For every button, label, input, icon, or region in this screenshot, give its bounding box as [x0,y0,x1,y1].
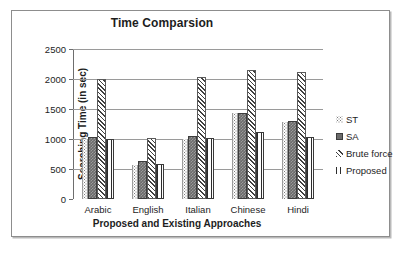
bar [297,72,306,199]
legend-swatch-icon [336,133,343,140]
bar-group-bars [223,49,273,199]
chart-frame: Time Comparsion Searching Time (in sec) … [11,10,390,237]
bar-group: Arabic [73,49,123,199]
bar [97,79,106,199]
bar [197,77,206,199]
legend-swatch-icon [336,150,343,157]
y-axis-tick-label: 1500 [45,104,66,115]
bar [247,70,256,199]
x-axis-category-label: English [123,204,173,215]
legend-item-label: Brute force [346,148,392,159]
bar [288,121,297,199]
x-axis-title: Proposed and Existing Approaches [32,218,322,229]
chart-title: Time Comparsion [12,16,312,30]
x-axis-category-label: Italian [173,204,223,215]
bar-group-bars [123,49,173,199]
y-axis-tick-label: 1000 [45,134,66,145]
bar-group: Italian [173,49,223,199]
bar-group-bars [273,49,323,199]
y-axis-tick-label: 0 [61,194,66,205]
plot-inner: 05001000150020002500 ArabicEnglishItalia… [73,49,323,199]
legend-item: ST [336,111,406,128]
bar-group: Chinese [223,49,273,199]
bar [256,132,264,199]
y-axis-tick-label: 500 [50,164,66,175]
plot-area: 05001000150020002500 ArabicEnglishItalia… [73,49,323,199]
y-axis-tick-label: 2500 [45,44,66,55]
x-axis-category-label: Arabic [73,204,123,215]
bar [156,164,164,199]
bar [138,161,147,199]
bar-group: Hindi [273,49,323,199]
legend-item: SA [336,128,406,145]
bar [206,138,214,199]
bar [147,138,156,199]
legend-item: Proposed [336,162,406,179]
bar-group-bars [173,49,223,199]
bar-group: English [123,49,173,199]
x-axis-category-label: Hindi [273,204,323,215]
bar [88,137,97,199]
bar [238,113,247,199]
bar-group-bars [73,49,123,199]
bar [306,137,314,199]
legend-swatch-icon [336,167,343,174]
x-axis-category-label: Chinese [223,204,273,215]
legend-swatch-icon [336,116,343,123]
legend-item-label: ST [346,114,358,125]
chart-legend: STSABrute forceProposed [336,111,406,179]
y-axis-tick-label: 2000 [45,74,66,85]
legend-item-label: Proposed [346,165,387,176]
legend-item: Brute force [336,145,406,162]
bar [188,136,197,199]
bar [106,139,114,199]
y-axis-tick [69,199,73,200]
legend-item-label: SA [346,131,359,142]
